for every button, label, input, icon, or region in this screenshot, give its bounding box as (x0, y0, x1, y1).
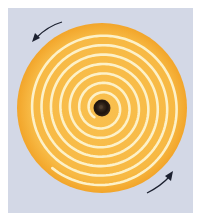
center-hole-highlight (99, 105, 103, 109)
spiral-disc-figure (0, 0, 201, 220)
